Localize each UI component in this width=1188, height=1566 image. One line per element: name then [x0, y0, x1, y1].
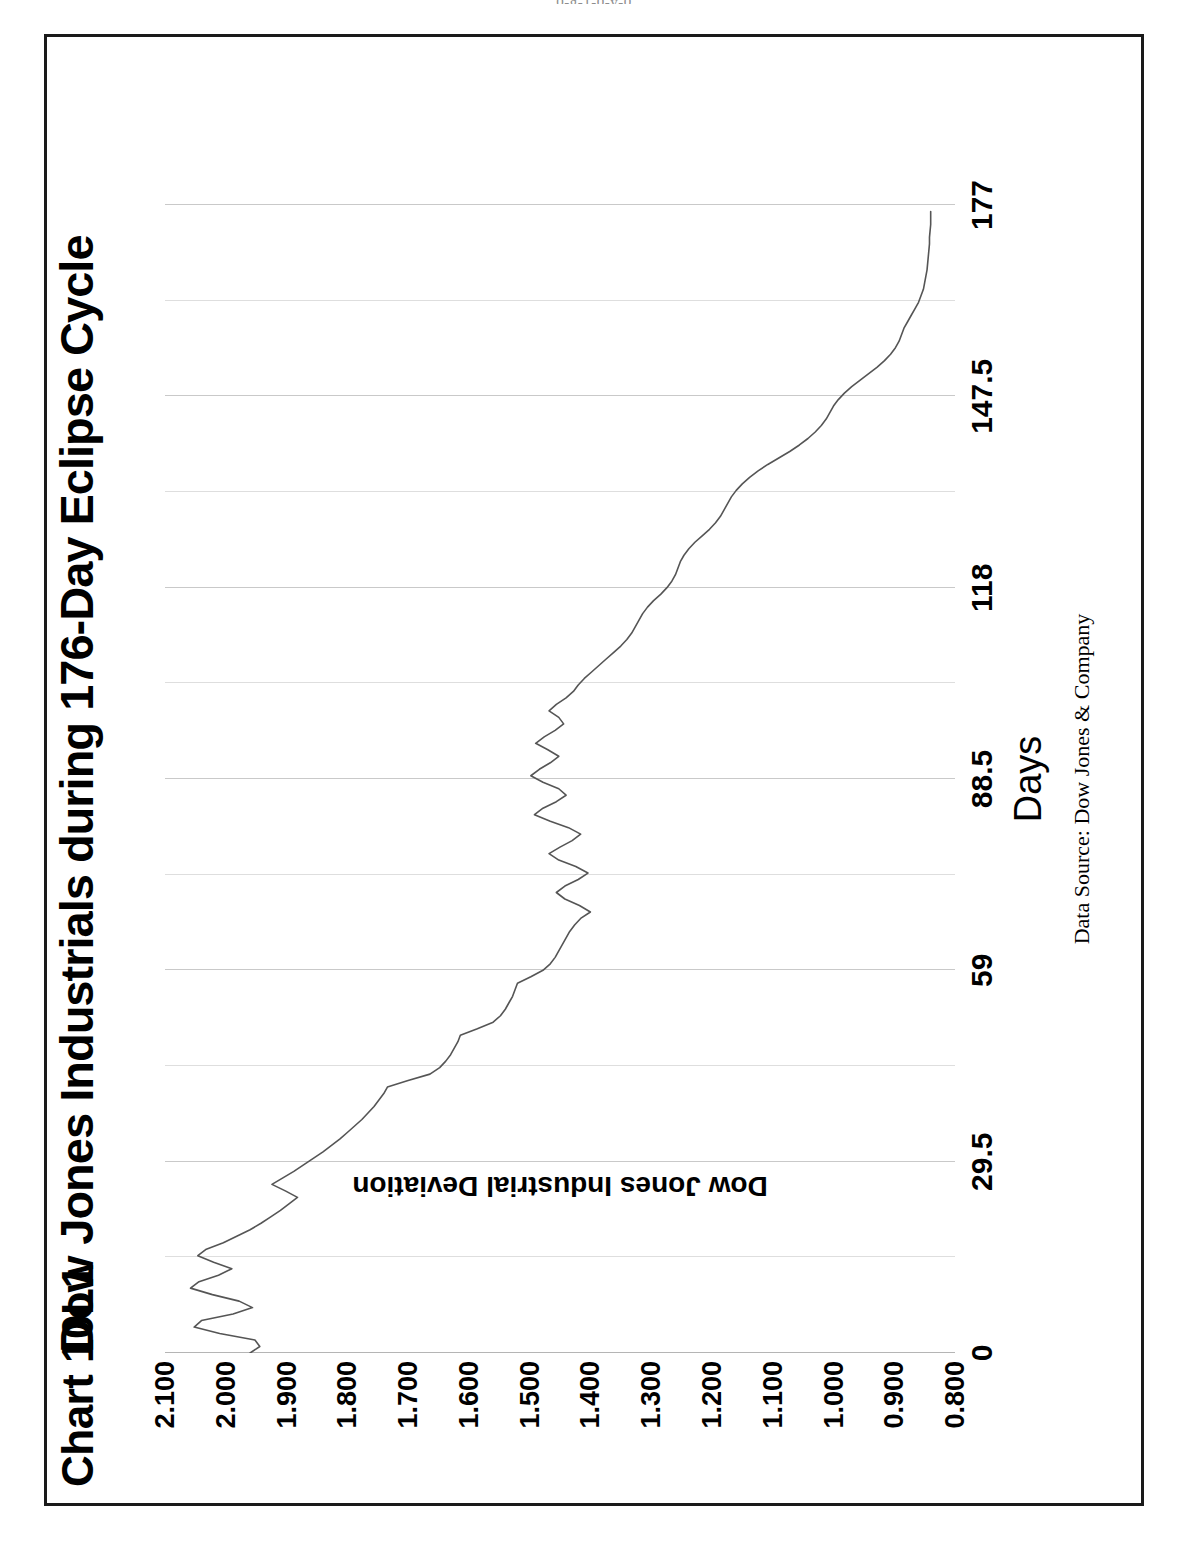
chart-frame: Chart 10L1 Dow Jones Industrials during … [44, 34, 1144, 1506]
x-axis-title: Days [1007, 205, 1050, 1353]
x-axis-tick-label: 88.5 [965, 750, 999, 808]
x-axis-tick-label: 177 [965, 180, 999, 230]
x-axis-tick-label: 118 [965, 564, 999, 612]
y-axis-title: Dow Jones Industrial Deviation [165, 791, 955, 1566]
data-source-note: Data Source: Dow Jones & Company [1069, 205, 1095, 1353]
page-top-scan-artifact: 0-g-1-0-y-0 [0, 0, 1188, 4]
rotated-chart-stage: Chart 10L1 Dow Jones Industrials during … [47, 37, 1141, 1503]
x-axis-tick-label: 0 [965, 1345, 999, 1362]
page-title: Dow Jones Industrials during 176-Day Ecl… [49, 173, 104, 1353]
x-axis-tick-label: 59 [965, 954, 999, 987]
x-axis-tick-label: 147.5 [965, 359, 999, 434]
x-axis-tick-label: 29.5 [965, 1133, 999, 1191]
